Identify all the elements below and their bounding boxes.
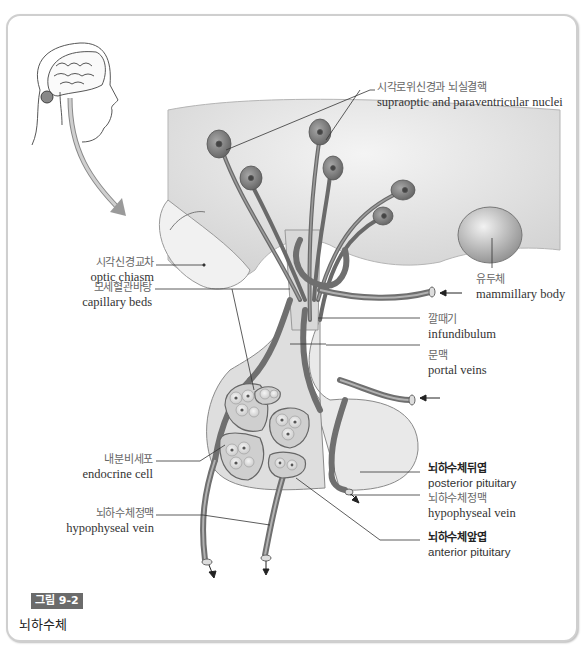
label-supraoptic-nuclei: 시각로위신경과 뇌실결핵 supraoptic and paraventricu… xyxy=(377,80,563,110)
label-hypophyseal-vein-left: 뇌하수체정맥 hypophyseal vein xyxy=(30,506,154,536)
mammillary-body xyxy=(458,207,522,263)
label-hypophyseal-vein-right: 뇌하수체정맥 hypophyseal vein xyxy=(428,491,516,521)
label-endocrine-cell: 내분비세포 endocrine cell xyxy=(40,452,153,482)
label-capillary-beds: 모세혈관바탕 capillary beds xyxy=(40,280,152,310)
label-posterior-pituitary: 뇌하수체뒤엽 posterior pituitary xyxy=(428,461,516,491)
label-infundibulum: 깔때기 infundibulum xyxy=(428,312,496,342)
figure-number-badge: 그림 9-2 xyxy=(31,593,83,609)
label-mammillary-body: 유두체 mammillary body xyxy=(476,272,565,302)
label-anterior-pituitary: 뇌하수체앞엽 anterior pituitary xyxy=(428,530,510,560)
figure-caption: 뇌하수체 xyxy=(19,614,67,633)
label-portal-veins: 문맥 portal veins xyxy=(428,348,487,378)
